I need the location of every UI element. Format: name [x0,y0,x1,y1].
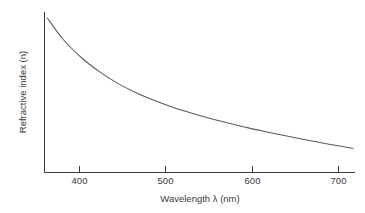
x-tick-label-400: 400 [72,175,88,186]
x-axis-title: Wavelength λ (nm) [160,193,239,204]
chart-figure: 400 500 600 700 Wavelength λ (nm) Refrac… [0,0,365,213]
x-tick-label-500: 500 [158,175,174,186]
x-tick-label-600: 600 [245,175,261,186]
y-axis-title: Refractive index (n) [17,51,28,133]
dispersion-plot: 400 500 600 700 Wavelength λ (nm) Refrac… [0,0,365,213]
x-tick-label-700: 700 [331,175,347,186]
refractive-index-curve [47,18,353,148]
